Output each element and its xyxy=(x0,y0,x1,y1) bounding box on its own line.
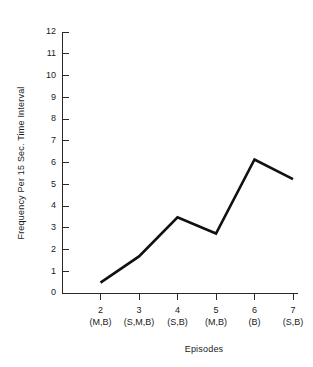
x-tick-sublabel-7: (S,B) xyxy=(283,317,304,327)
y-tick-label-1: 1 xyxy=(51,266,56,276)
y-axis-title: Frequency Per 15 Sec. Time Interval xyxy=(16,86,26,239)
x-tick-sublabel-3: (S,M,B) xyxy=(124,317,155,327)
y-tick-label-11: 11 xyxy=(47,48,56,58)
y-tick-label-12: 12 xyxy=(46,26,56,36)
x-tick-label-4: 4 xyxy=(175,305,180,315)
x-axis-title: Episodes xyxy=(185,344,224,354)
y-tick-label-7: 7 xyxy=(51,135,56,145)
x-tick-sublabel-2: (M,B) xyxy=(90,317,112,327)
y-tick-label-8: 8 xyxy=(51,113,56,123)
data-series-line xyxy=(101,159,294,282)
y-tick-label-3: 3 xyxy=(51,222,56,232)
x-tick-sublabel-5: (M,B) xyxy=(205,317,227,327)
y-tick-label-6: 6 xyxy=(51,157,56,167)
y-tick-label-5: 5 xyxy=(51,179,56,189)
y-tick-label-9: 9 xyxy=(51,92,56,102)
chart-figure: 12 11 10 9 8 7 6 5 4 3 2 1 0 2 (M,B) 3 (… xyxy=(0,0,313,367)
y-tick-label-2: 2 xyxy=(51,244,56,254)
y-tick-marks xyxy=(63,32,69,271)
y-tick-label-10: 10 xyxy=(46,70,56,80)
x-tick-sublabel-4: (S,B) xyxy=(167,317,188,327)
x-tick-label-3: 3 xyxy=(136,305,141,315)
x-tick-marks xyxy=(101,294,294,300)
x-tick-label-5: 5 xyxy=(213,305,218,315)
x-tick-label-6: 6 xyxy=(252,305,257,315)
x-tick-label-2: 2 xyxy=(98,305,103,315)
x-tick-label-7: 7 xyxy=(290,305,295,315)
line-chart-plot: 12 11 10 9 8 7 6 5 4 3 2 1 0 2 (M,B) 3 (… xyxy=(0,0,313,367)
y-tick-label-0: 0 xyxy=(51,287,56,297)
y-tick-label-4: 4 xyxy=(51,200,56,210)
x-tick-sublabel-6: (B) xyxy=(249,317,261,327)
